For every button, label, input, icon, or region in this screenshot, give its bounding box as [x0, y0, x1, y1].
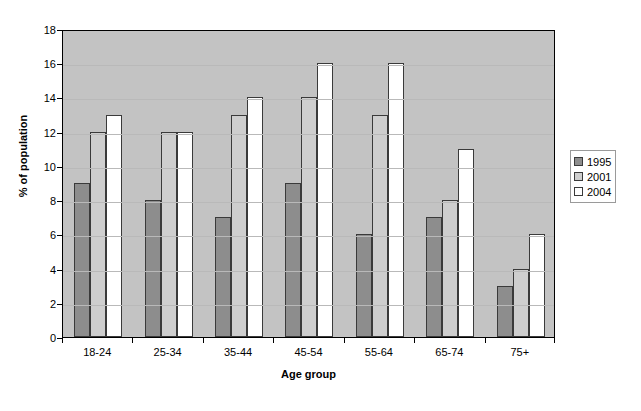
- bar[interactable]: [388, 63, 404, 337]
- legend-item[interactable]: 2004: [574, 184, 611, 199]
- y-axis-tick-label: 14: [44, 92, 56, 104]
- bar[interactable]: [513, 269, 529, 337]
- bar[interactable]: [317, 63, 333, 337]
- x-axis-tick-mark: [554, 338, 555, 343]
- x-axis-tick-label: 75+: [510, 346, 529, 358]
- y-axis-tick-mark: [57, 64, 62, 65]
- bar-group: [345, 31, 415, 337]
- bar[interactable]: [529, 234, 545, 337]
- legend-item[interactable]: 1995: [574, 154, 611, 169]
- gridline: [63, 134, 554, 135]
- bar-group: [274, 31, 344, 337]
- x-axis-tick-mark: [273, 338, 274, 343]
- gridline: [63, 99, 554, 100]
- y-axis-tick-mark: [57, 235, 62, 236]
- bar[interactable]: [74, 183, 90, 337]
- x-axis-tick-label: 25-34: [154, 346, 182, 358]
- y-axis-tick-mark: [57, 30, 62, 31]
- bar[interactable]: [161, 132, 177, 337]
- y-axis-tick-mark: [57, 167, 62, 168]
- gridline: [63, 202, 554, 203]
- bar[interactable]: [145, 200, 161, 337]
- y-axis-tick-mark: [57, 270, 62, 271]
- x-axis-tick-mark: [485, 338, 486, 343]
- x-axis-ticks: [62, 338, 555, 344]
- y-axis-tick-mark: [57, 201, 62, 202]
- bar[interactable]: [442, 200, 458, 337]
- x-axis-tick-label: 65-74: [435, 346, 463, 358]
- bar[interactable]: [458, 149, 474, 337]
- y-axis-tick-labels: 024681012141618: [28, 30, 56, 338]
- legend-item[interactable]: 2001: [574, 169, 611, 184]
- y-axis-tick-mark: [57, 304, 62, 305]
- bar[interactable]: [426, 217, 442, 337]
- y-axis-tick-label: 4: [50, 264, 56, 276]
- bar-group: [204, 31, 274, 337]
- legend-label: 2001: [587, 171, 611, 183]
- y-axis-tick-label: 10: [44, 161, 56, 173]
- bar[interactable]: [285, 183, 301, 337]
- chart-legend: 199520012004: [570, 150, 616, 203]
- bar-group: [133, 31, 203, 337]
- gridline: [63, 271, 554, 272]
- x-axis-tick-mark: [414, 338, 415, 343]
- y-axis-tick-label: 6: [50, 229, 56, 241]
- bar[interactable]: [90, 132, 106, 337]
- x-axis-tick-label: 45-54: [294, 346, 322, 358]
- legend-label: 1995: [587, 156, 611, 168]
- y-axis-tick-label: 2: [50, 298, 56, 310]
- gridline: [63, 168, 554, 169]
- bar-group: [63, 31, 133, 337]
- x-axis-tick-labels: 18-2425-3435-4445-5455-6465-7475+: [62, 346, 555, 362]
- y-axis-tick-mark: [57, 133, 62, 134]
- legend-swatch-icon: [574, 172, 583, 181]
- y-axis-tick-label: 18: [44, 24, 56, 36]
- x-axis-title: Age group: [62, 368, 555, 380]
- x-axis-tick-mark: [344, 338, 345, 343]
- gridline: [63, 305, 554, 306]
- y-axis-tick-mark: [57, 98, 62, 99]
- legend-swatch-icon: [574, 157, 583, 166]
- bar[interactable]: [356, 234, 372, 337]
- bar[interactable]: [215, 217, 231, 337]
- x-axis-tick-label: 18-24: [83, 346, 111, 358]
- gridline: [63, 65, 554, 66]
- bar-chart: % of population 024681012141618 18-2425-…: [0, 0, 641, 411]
- x-axis-tick-mark: [203, 338, 204, 343]
- plot-area: [62, 30, 555, 338]
- bar-group: [415, 31, 485, 337]
- bar[interactable]: [106, 115, 122, 337]
- x-axis-tick-mark: [62, 338, 63, 343]
- bar[interactable]: [231, 115, 247, 337]
- bar[interactable]: [177, 132, 193, 337]
- bar-group: [486, 31, 556, 337]
- x-axis-tick-label: 55-64: [365, 346, 393, 358]
- clipped-chart-title: [150, 0, 450, 1]
- y-axis-tick-label: 8: [50, 195, 56, 207]
- y-axis-tick-label: 0: [50, 332, 56, 344]
- legend-label: 2004: [587, 186, 611, 198]
- bar[interactable]: [497, 286, 513, 337]
- bar-groups: [63, 31, 554, 337]
- y-axis-tick-label: 16: [44, 58, 56, 70]
- y-axis-tick-mark: [57, 338, 62, 339]
- x-axis-tick-label: 35-44: [224, 346, 252, 358]
- bar[interactable]: [372, 115, 388, 337]
- gridline: [63, 236, 554, 237]
- y-axis-tick-label: 12: [44, 127, 56, 139]
- legend-swatch-icon: [574, 187, 583, 196]
- x-axis-tick-mark: [132, 338, 133, 343]
